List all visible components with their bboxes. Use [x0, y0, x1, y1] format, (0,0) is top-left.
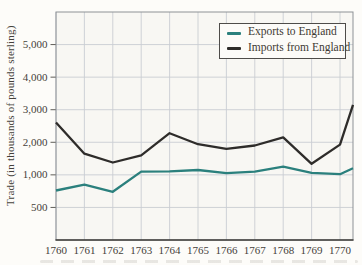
x-tick-label: 1765: [187, 244, 210, 256]
legend-item-imports: Imports from England: [227, 42, 345, 56]
y-tick-label: 3,000: [23, 103, 48, 115]
x-tick-label: 1770: [329, 244, 352, 256]
x-tick-label: 1762: [102, 244, 124, 256]
y-axis-title: Trade (in thousands of pounds sterling): [1, 10, 19, 222]
x-tick-label: 1767: [244, 244, 267, 256]
x-tick-label: 1761: [73, 244, 95, 256]
y-tick-label: 500: [31, 201, 48, 213]
y-tick-label: 2,000: [23, 136, 48, 148]
legend-item-exports: Exports to England: [227, 26, 345, 40]
y-tick-label: 5,000: [23, 38, 48, 50]
x-tick-label: 1769: [301, 244, 324, 256]
x-tick-label: 1764: [159, 244, 182, 256]
exports-line-swatch: [227, 32, 241, 35]
legend-label-exports: Exports to England: [248, 26, 337, 40]
legend-label-imports: Imports from England: [248, 42, 350, 56]
legend-box: Exports to England Imports from England: [219, 23, 346, 59]
trade-chart-figure: 5001,0002,0003,0004,0005,000176017611762…: [0, 0, 362, 265]
x-tick-label: 1766: [215, 244, 238, 256]
x-tick-label: 1768: [272, 244, 295, 256]
cropped-caption-remnant: [40, 260, 358, 263]
x-tick-label: 1760: [45, 244, 68, 256]
y-tick-label: 4,000: [23, 71, 48, 83]
x-tick-label: 1763: [130, 244, 153, 256]
y-tick-label: 1,000: [23, 168, 48, 180]
imports-line-swatch: [227, 47, 241, 50]
